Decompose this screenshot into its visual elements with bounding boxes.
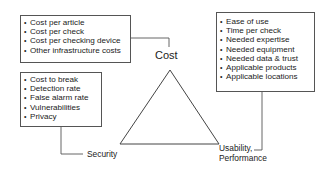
vertex-label-performance: Performance (219, 153, 267, 163)
list-item: Vulnerabilities (24, 103, 97, 112)
tradeoff-triangle (120, 70, 219, 144)
list-item: Applicable products (220, 63, 310, 72)
list-item: Ease of use (220, 17, 310, 26)
list-item: Cost per article (24, 18, 126, 27)
list-item: False alarm rate (24, 93, 97, 102)
list-item: Needed equipment (220, 45, 310, 54)
list-item: Applicable locations (220, 72, 310, 81)
usability-connector (254, 92, 262, 150)
usability-factors-box: Ease of use Time per check Needed expert… (216, 12, 315, 92)
vertex-label-security: Security (87, 149, 117, 159)
list-item: Privacy (24, 112, 97, 121)
list-item: Needed expertise (220, 35, 310, 44)
cost-connector (131, 38, 169, 47)
list-item: Cost per checking device (24, 36, 126, 45)
list-item: Cost to break (24, 75, 97, 84)
list-item: Detection rate (24, 84, 97, 93)
list-item: Cost per check (24, 27, 126, 36)
list-item: Other infrastructure costs (24, 46, 126, 55)
vertex-label-cost: Cost (155, 50, 178, 60)
cost-factors-box: Cost per article Cost per check Cost per… (20, 15, 131, 63)
security-factors-box: Cost to break Detection rate False alarm… (20, 72, 102, 127)
list-item: Needed data & trust (220, 54, 310, 63)
vertex-label-usability: Usability, (219, 143, 252, 153)
security-connector (61, 127, 83, 154)
list-item: Time per check (220, 26, 310, 35)
